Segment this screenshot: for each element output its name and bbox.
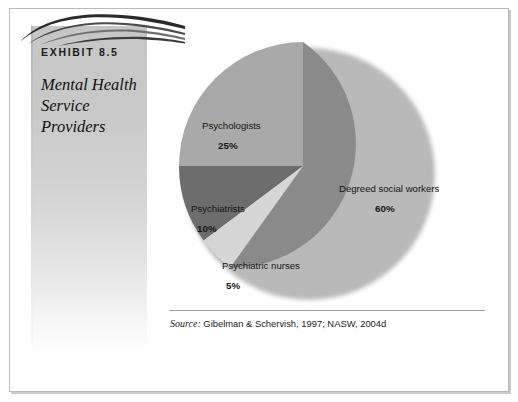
pie-label-psychiatric-nurses: Psychiatric nurses 5% (222, 260, 300, 291)
pie-label-psychologists-name: Psychologists (202, 120, 261, 131)
pie-label-psychologists: Psychologists 25% (202, 120, 261, 151)
source-note: Source: Gibelman & Schervish, 1997; NASW… (170, 318, 386, 329)
source-citation: Gibelman & Schervish, 1997; NASW, 2004d (201, 318, 387, 329)
pie-slices (177, 40, 429, 292)
pie-label-psychiatrists-value: 10% (197, 223, 245, 234)
pie-label-psychiatric-nurses-value: 5% (226, 280, 300, 291)
exhibit-number-label: EXHIBIT 8.5 (41, 46, 119, 58)
pie-label-degreed-social-workers-value: 60% (375, 203, 439, 214)
pie-label-psychologists-value: 25% (218, 140, 261, 151)
exhibit-title: Mental Health Service Providers (41, 74, 145, 137)
source-prefix: Source: (170, 318, 201, 329)
source-divider (169, 310, 485, 311)
pie-label-degreed-social-workers: Degreed social workers 60% (339, 183, 439, 214)
chart-area: Psychologists 25% Degreed social workers… (152, 26, 502, 348)
exhibit-page: EXHIBIT 8.5 Mental Health Service Provid… (0, 0, 518, 402)
pie-label-psychiatrists: Psychiatrists 10% (191, 203, 245, 234)
exhibit-sidebar-edge (31, 26, 33, 348)
pie-chart (177, 40, 429, 292)
pie-label-psychiatric-nurses-name: Psychiatric nurses (222, 260, 300, 271)
pie-label-psychiatrists-name: Psychiatrists (191, 203, 245, 214)
pie-label-degreed-social-workers-name: Degreed social workers (339, 183, 439, 194)
